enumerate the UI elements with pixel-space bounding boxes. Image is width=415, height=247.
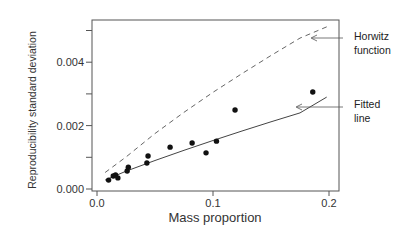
y-axis-title: Reproducibility standard deviation xyxy=(26,31,38,189)
annotation-fitted-line2: line xyxy=(354,112,371,124)
y-tick-label: 0.004 xyxy=(56,56,84,68)
data-point xyxy=(126,164,131,169)
x-axis: 0.00.10.2 xyxy=(89,191,336,209)
data-point xyxy=(189,140,194,145)
annotation-fitted-line1: Fitted xyxy=(354,98,380,110)
x-tick-label: 0.2 xyxy=(321,197,336,209)
chart: 0.0000.0020.004 0.00.10.2 Mass proportio… xyxy=(0,0,415,247)
data-points xyxy=(106,89,316,183)
x-tick-label: 0.1 xyxy=(205,197,220,209)
x-tick-label: 0.0 xyxy=(89,197,104,209)
series-lines xyxy=(105,26,328,180)
data-point xyxy=(167,144,172,149)
data-point xyxy=(115,175,120,180)
data-point xyxy=(144,160,149,165)
annotation-horwitz-line1: Horwitz xyxy=(354,30,389,42)
data-point xyxy=(203,150,208,155)
y-tick-label: 0.002 xyxy=(56,120,84,132)
annotation-horwitz-line2: function xyxy=(354,44,391,56)
data-point xyxy=(310,89,315,94)
data-point xyxy=(106,177,111,182)
annotation-horwitz: Horwitz function xyxy=(311,30,391,56)
y-tick-label: 0.000 xyxy=(56,183,84,195)
data-point xyxy=(232,107,237,112)
data-point xyxy=(214,138,219,143)
data-point xyxy=(145,153,150,158)
horwitz-function-line xyxy=(105,26,328,172)
annotation-fitted: Fitted line xyxy=(296,98,380,124)
y-axis: 0.0000.0020.004 xyxy=(56,31,92,196)
x-axis-title: Mass proportion xyxy=(168,210,261,225)
